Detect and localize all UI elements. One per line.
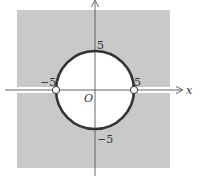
diagram-canvas: 5 −5 −5 5 O x — [0, 0, 201, 177]
x-axis-label: x — [186, 84, 193, 97]
tick-label-left: −5 — [40, 76, 56, 89]
tick-label-top: 5 — [97, 39, 104, 52]
tick-label-right: 5 — [134, 76, 141, 89]
tick-label-bottom: −5 — [97, 133, 113, 146]
origin-label: O — [84, 92, 93, 105]
